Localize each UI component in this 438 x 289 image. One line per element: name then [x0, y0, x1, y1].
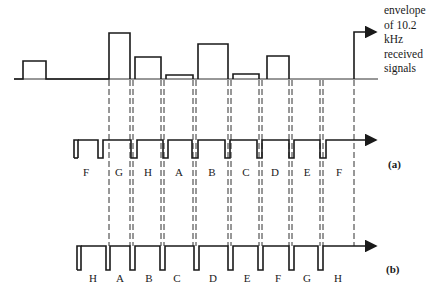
segment-label-a: A: [175, 167, 183, 178]
envelope-label-line: kHz: [384, 32, 426, 47]
row-b-caption: (b): [386, 263, 399, 275]
segment-label-a: C: [242, 167, 249, 178]
segment-label-a: F: [83, 167, 89, 178]
segment-label-b: H: [89, 273, 97, 284]
alignment-dashes: [109, 80, 354, 246]
pulse-train-b: [77, 246, 376, 270]
segment-label-a: D: [271, 167, 279, 178]
segment-label-a: E: [304, 167, 311, 178]
envelope-label: envelope of 10.2 kHz received signals: [384, 3, 426, 76]
envelope-label-line: of 10.2: [384, 18, 426, 33]
envelope-label-line: envelope: [384, 3, 426, 18]
segment-label-b: C: [173, 273, 180, 284]
envelope-waveform: [14, 32, 378, 79]
segment-label-b: H: [334, 273, 342, 284]
envelope-label-line: received: [384, 47, 426, 62]
segment-label-b: A: [116, 273, 124, 284]
segment-label-b: F: [275, 273, 281, 284]
segment-label-a: G: [115, 167, 123, 178]
segment-label-a: B: [208, 167, 215, 178]
segment-label-b: E: [244, 273, 251, 284]
row-a-caption: (a): [388, 158, 401, 170]
pulse-train-a: [74, 140, 376, 158]
segment-label-b: D: [209, 273, 217, 284]
segment-label-b: B: [145, 273, 152, 284]
segment-label-b: G: [303, 273, 311, 284]
segment-label-a: H: [144, 167, 152, 178]
envelope-label-line: signals: [384, 61, 426, 76]
timing-diagram: [0, 0, 438, 289]
segment-label-a: F: [336, 167, 342, 178]
